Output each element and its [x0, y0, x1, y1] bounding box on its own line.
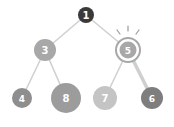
- node-4[interactable]: 4: [12, 88, 32, 108]
- node-label: 5: [125, 46, 131, 56]
- node-1[interactable]: 1: [78, 7, 94, 23]
- node-5-highlighted[interactable]: 5: [116, 38, 140, 62]
- node-label: 7: [102, 93, 109, 104]
- spark-icon: [136, 30, 139, 34]
- highlight-sparks: [117, 26, 139, 34]
- node-label: 3: [42, 45, 49, 56]
- node-6[interactable]: 6: [141, 87, 163, 109]
- node-label: 8: [63, 93, 70, 104]
- node-label: 6: [149, 94, 155, 104]
- spark-icon: [117, 30, 120, 34]
- node-label: 1: [83, 10, 90, 21]
- tree-diagram: 1 3 5 4 8 7 6: [0, 0, 174, 127]
- node-3[interactable]: 3: [34, 39, 56, 61]
- node-7[interactable]: 7: [93, 86, 117, 110]
- node-8[interactable]: 8: [51, 83, 81, 113]
- node-label: 4: [19, 94, 25, 104]
